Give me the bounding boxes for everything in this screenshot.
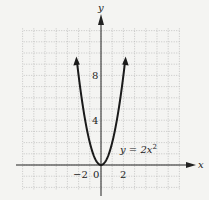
y-tick-4: 4: [92, 115, 98, 126]
x-axis: x: [16, 159, 204, 170]
y-axis-arrow-icon: [98, 14, 104, 25]
x-axis-arrow-icon: [186, 162, 196, 168]
x-tick-neg2: −2: [73, 169, 88, 180]
parabola-graph: x y −2 0 2 4 8 y = 2x2: [0, 0, 209, 200]
x-tick-2: 2: [120, 169, 126, 180]
y-axis-label: y: [97, 2, 104, 13]
y-axis: y: [97, 2, 104, 196]
x-tick-0: 0: [93, 169, 99, 180]
equation-label: y = 2x2: [119, 143, 157, 155]
y-tick-8: 8: [92, 70, 98, 81]
x-axis-label: x: [198, 159, 204, 170]
